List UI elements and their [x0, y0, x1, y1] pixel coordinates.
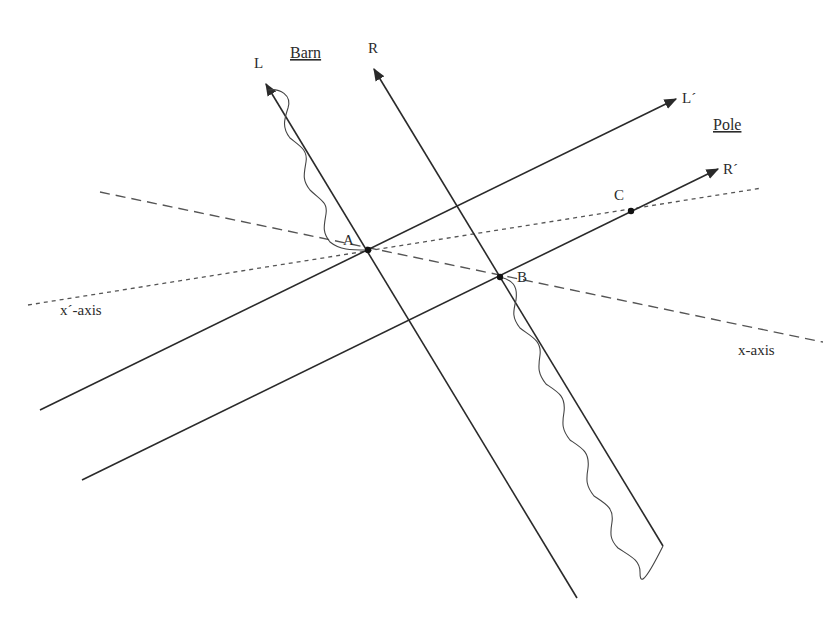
- label-R: R: [368, 40, 378, 56]
- event-B-dot: [497, 274, 503, 280]
- label-B: B: [517, 269, 527, 285]
- label-C: C: [614, 187, 624, 203]
- label-x-axis: x-axis: [738, 342, 775, 358]
- event-C-dot: [628, 208, 634, 214]
- worldline-R-prime: [82, 169, 718, 480]
- title-barn: Barn: [290, 44, 321, 61]
- worldline-L-prime: [40, 99, 676, 410]
- title-pole: Pole: [713, 116, 741, 133]
- label-A: A: [343, 232, 354, 248]
- event-A-dot: [365, 247, 371, 253]
- label-x-prime-axis: x´-axis: [60, 302, 102, 318]
- x-prime-axis-line: [28, 188, 762, 305]
- worldline-R: [374, 69, 663, 546]
- label-L: L: [254, 55, 263, 71]
- barn-pole-spacetime-diagram: Barn Pole L R L´ R´ A B C x-axis x´-axis: [0, 0, 823, 621]
- label-R-prime: R´: [723, 161, 738, 177]
- label-L-prime: L´: [682, 90, 696, 106]
- light-wave-R: [500, 277, 663, 579]
- worldline-L: [266, 84, 577, 598]
